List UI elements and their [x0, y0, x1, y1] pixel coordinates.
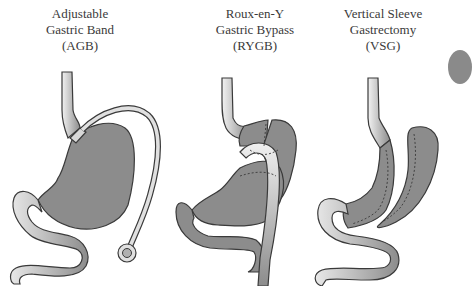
rygb-illustration	[176, 78, 296, 286]
agb-illustration	[11, 72, 159, 284]
vsg-illustration	[315, 78, 438, 286]
